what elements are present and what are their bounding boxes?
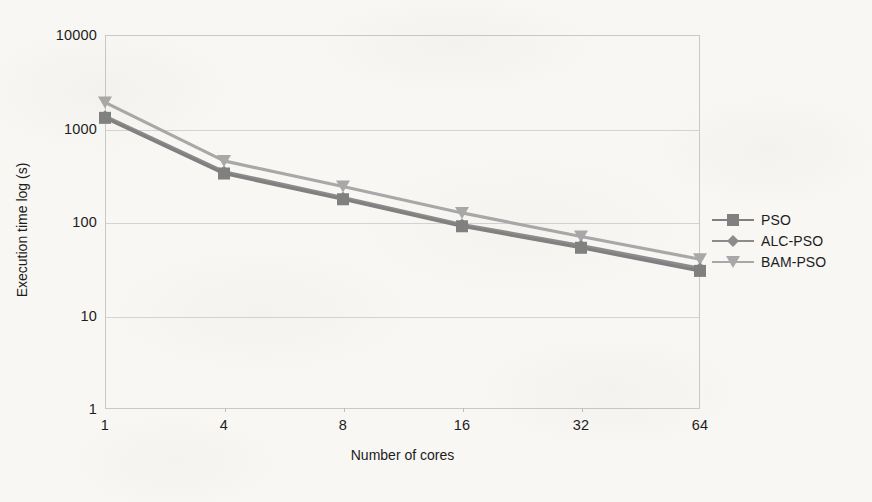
square-marker	[456, 220, 468, 232]
series-line	[105, 102, 700, 259]
legend-swatch	[712, 233, 754, 249]
legend-label: ALC-PSO	[761, 233, 823, 249]
legend-label: BAM-PSO	[761, 254, 826, 270]
square-marker	[727, 214, 739, 226]
diamond-marker	[727, 235, 739, 247]
triangle-down-icon	[723, 254, 743, 270]
triangle-down-marker	[726, 256, 740, 268]
legend-swatch	[712, 254, 754, 270]
series-alc-pso	[99, 110, 706, 274]
legend-label: PSO	[761, 212, 791, 228]
square-marker	[99, 112, 111, 124]
series-line	[105, 118, 700, 271]
square-marker	[337, 193, 349, 205]
legend-item-pso[interactable]: PSO	[712, 209, 826, 230]
square-icon	[723, 212, 743, 228]
triangle-down-marker	[98, 96, 112, 108]
execution-time-line-chart: 100001000100101 148163264 Execution time…	[0, 0, 872, 502]
series-line	[105, 116, 700, 268]
square-marker	[218, 168, 230, 180]
square-marker	[694, 265, 706, 277]
legend-item-alc-pso[interactable]: ALC-PSO	[712, 230, 826, 251]
series-bam-pso	[98, 96, 707, 265]
square-marker	[575, 242, 587, 254]
chart-legend: PSOALC-PSOBAM-PSO	[712, 209, 826, 272]
legend-item-bam-pso[interactable]: BAM-PSO	[712, 251, 826, 272]
diamond-icon	[723, 233, 743, 249]
legend-swatch	[712, 212, 754, 228]
